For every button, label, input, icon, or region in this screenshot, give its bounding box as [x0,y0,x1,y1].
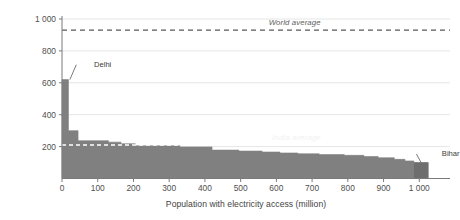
y-tick-label-400: 400 [18,110,56,120]
reference-label-world-average: World average [269,18,321,27]
reference-lines [62,30,450,145]
plot-area-series [62,80,428,179]
leader-line-bihar [416,154,421,163]
annotation-label-bihar: Bihar [442,149,460,158]
x-tick-label-1000: 1 000 [396,183,442,193]
reference-label-india-average: India average [272,133,321,142]
leader-line-delhi [70,65,76,80]
area-series-kwh-per-capita [62,80,428,179]
x-axis-title: Population with electricity access (mill… [62,199,430,209]
annotation-label-delhi: Delhi [94,60,111,69]
bar-bihar [414,163,428,179]
y-tick-label-200: 200 [18,142,56,152]
gridlines [62,19,450,147]
y-tick-label-1000: 1 000 [18,14,56,24]
y-tick-label-800: 800 [18,46,56,56]
y-tick-label-600: 600 [18,78,56,88]
